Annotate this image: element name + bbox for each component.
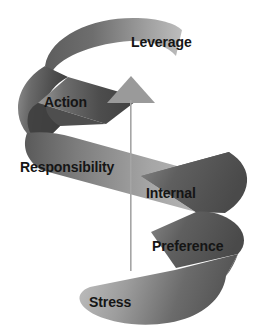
stage-label-leverage: Leverage <box>131 35 192 49</box>
stage-label-responsibility: Responsibility <box>20 160 114 174</box>
stage-label-action: Action <box>44 95 87 109</box>
stage-label-preference: Preference <box>152 239 223 253</box>
stage-label-stress: Stress <box>89 295 131 309</box>
stage-label-internal: Internal <box>146 186 196 200</box>
spiral-diagram: Leverage Action Responsibility Internal … <box>0 0 260 333</box>
